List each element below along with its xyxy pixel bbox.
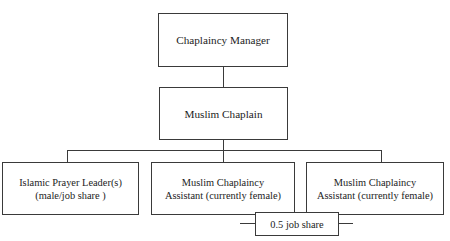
node-label-line: Assistant (currently female) [165, 189, 281, 202]
node-islamic-prayer-leader[interactable]: Islamic Prayer Leader(s) (male/job share… [2, 162, 139, 215]
node-label-line: Assistant (currently female) [317, 189, 433, 202]
node-muslim-chaplaincy-assistant-1[interactable]: Muslim Chaplaincy Assistant (currently f… [151, 162, 295, 215]
node-label-line: (male/job share ) [35, 189, 105, 202]
org-chart: Chaplaincy Manager Muslim Chaplain Islam… [0, 0, 450, 241]
node-chaplaincy-manager[interactable]: Chaplaincy Manager [158, 13, 288, 67]
node-label-line: Muslim Chaplaincy [334, 176, 416, 189]
node-muslim-chaplaincy-assistant-2[interactable]: Muslim Chaplaincy Assistant (currently f… [306, 162, 444, 215]
node-job-share-annotation[interactable]: 0.5 job share [255, 212, 339, 236]
node-muslim-chaplain[interactable]: Muslim Chaplain [159, 87, 288, 140]
node-label-line: Islamic Prayer Leader(s) [19, 176, 122, 189]
node-label-line: Muslim Chaplaincy [182, 176, 264, 189]
node-label-line: Chaplaincy Manager [176, 33, 270, 47]
node-label-line: 0.5 job share [270, 218, 323, 231]
node-label-line: Muslim Chaplain [184, 107, 262, 121]
